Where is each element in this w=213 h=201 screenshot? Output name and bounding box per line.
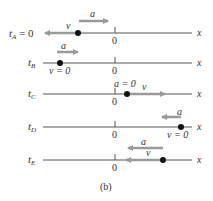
origin-label-e: 0 [112,162,117,173]
acceleration-label-c: a = 0 [114,78,136,89]
time-label-e: tE [28,153,36,167]
time-label-c: tC [28,87,36,101]
velocity-label-d: v = 0 [167,129,188,140]
row-e: tE 0 x a v [28,136,202,173]
time-label-d: tD [28,120,36,134]
axis-label-b: x [196,57,202,68]
figure-caption: (b) [100,181,112,193]
particle-dot-icon [160,157,166,163]
row-c: tC 0 x a = 0 v [28,78,202,107]
particle-dot-icon [75,30,81,36]
velocity-label-c: v [142,81,147,92]
origin-label-d: 0 [112,129,117,140]
acceleration-label-b: a [61,40,66,51]
velocity-label-b: v = 0 [49,65,70,76]
row-a: tA = 0 0 x v a [9,8,202,46]
particle-dot-icon [124,91,130,97]
origin-label-a: 0 [112,35,117,46]
acceleration-label-e: a [141,136,146,147]
axis-label-a: x [196,27,202,38]
axis-label-e: x [196,154,202,165]
axis-label-d: x [196,121,202,132]
velocity-label-e: v [146,147,151,158]
row-d: tD 0 x a v = 0 [28,106,202,140]
axis-label-c: x [196,88,202,99]
time-label-a: tA = 0 [9,27,34,41]
acceleration-label-a: a [90,8,95,19]
origin-label-c: 0 [112,96,117,107]
motion-diagram: tA = 0 0 x v a tB 0 x a v = 0 tC 0 x a =… [0,0,213,201]
acceleration-label-d: a [177,106,182,117]
velocity-label-a: v [66,20,71,31]
time-label-b: tB [28,56,36,70]
origin-label-b: 0 [112,65,117,76]
